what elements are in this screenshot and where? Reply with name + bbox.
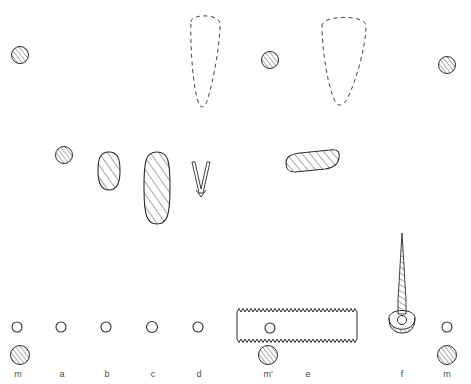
caption-row: m a b c d m' e f m xyxy=(14,369,451,379)
hatched-circle-top-left xyxy=(12,47,29,64)
needle-base-ring xyxy=(398,316,407,325)
v-shape-d xyxy=(192,162,210,197)
open-circle-a xyxy=(56,322,66,332)
middle-row-group xyxy=(56,147,340,225)
hatched-circle-bottom-right xyxy=(438,346,457,365)
label-m-left: m xyxy=(14,369,22,379)
label-d: d xyxy=(196,369,201,379)
hatched-circle-top-right xyxy=(439,57,456,74)
plate-canvas: m a b c d m' e f m xyxy=(0,0,471,384)
bottom-hatched-circles xyxy=(11,346,457,365)
label-m-right: m xyxy=(443,369,451,379)
label-c: c xyxy=(151,369,156,379)
hatched-circle-mid-left xyxy=(56,147,73,164)
label-m-prime: m' xyxy=(263,369,272,379)
hatched-oval-b xyxy=(98,152,120,190)
artefact-plate: m a b c d m' e f m xyxy=(0,0,471,384)
dashed-teardrop-right xyxy=(322,17,366,105)
open-circle-c xyxy=(147,322,158,333)
label-f: f xyxy=(401,369,404,379)
hatched-circle-bottom-left xyxy=(11,346,30,365)
hatched-circle-bottom-mprime xyxy=(259,346,278,365)
hatched-circle-top-mid xyxy=(262,52,279,69)
open-circle-mr xyxy=(442,322,452,332)
dashed-teardrop-left xyxy=(191,16,220,107)
open-circle-d xyxy=(193,322,203,332)
top-row-group xyxy=(12,16,456,107)
serrated-bar-e xyxy=(237,309,357,343)
open-circle-b xyxy=(101,322,111,332)
hatched-oval-c xyxy=(144,152,170,224)
label-b: b xyxy=(104,369,109,379)
label-a: a xyxy=(59,369,64,379)
label-e: e xyxy=(305,369,310,379)
hatched-lozenge-e xyxy=(286,150,339,172)
bottom-open-circles xyxy=(12,322,452,333)
open-circle-m xyxy=(12,322,22,332)
needle-f xyxy=(389,233,415,333)
serrated-bar-inner-circle xyxy=(265,323,275,333)
